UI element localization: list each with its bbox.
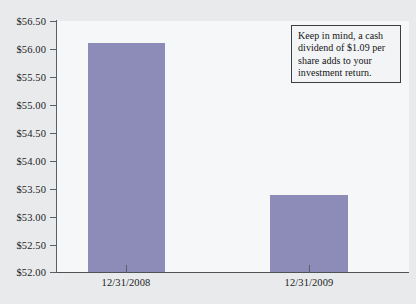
y-axis-label: $53.00 <box>0 213 46 224</box>
y-tick <box>50 49 57 50</box>
bar-2009 <box>270 195 348 272</box>
y-tick <box>50 21 57 22</box>
x-axis-label: 12/31/2008 <box>71 278 181 289</box>
dividend-note-callout: Keep in mind, a cash dividend of $1.09 p… <box>291 25 401 83</box>
y-axis-label: $56.50 <box>0 17 46 28</box>
y-axis-label: $54.50 <box>0 129 46 140</box>
y-tick <box>50 217 57 218</box>
y-axis-label: $52.00 <box>0 268 46 279</box>
y-axis-line <box>56 20 57 273</box>
y-axis-label: $53.50 <box>0 185 46 196</box>
y-tick <box>50 105 57 106</box>
x-tick <box>126 265 127 273</box>
y-axis-label: $55.00 <box>0 101 46 112</box>
y-axis-label: $52.50 <box>0 241 46 252</box>
y-tick <box>50 161 57 162</box>
y-axis-label: $55.50 <box>0 73 46 84</box>
y-axis-label: $56.00 <box>0 45 46 56</box>
bar-chart-figure: $56.50 $56.00 $55.50 $55.00 $54.50 $54.0… <box>0 0 416 304</box>
y-tick <box>50 272 57 273</box>
y-axis-label: $54.00 <box>0 157 46 168</box>
y-tick <box>50 77 57 78</box>
x-axis-label: 12/31/2009 <box>254 278 364 289</box>
bar-2008 <box>88 43 165 272</box>
y-tick <box>50 245 57 246</box>
dividend-note-text: Keep in mind, a cash dividend of $1.09 p… <box>298 30 395 80</box>
x-axis-line <box>56 272 409 273</box>
y-tick <box>50 189 57 190</box>
x-tick <box>309 265 310 273</box>
y-tick <box>50 133 57 134</box>
